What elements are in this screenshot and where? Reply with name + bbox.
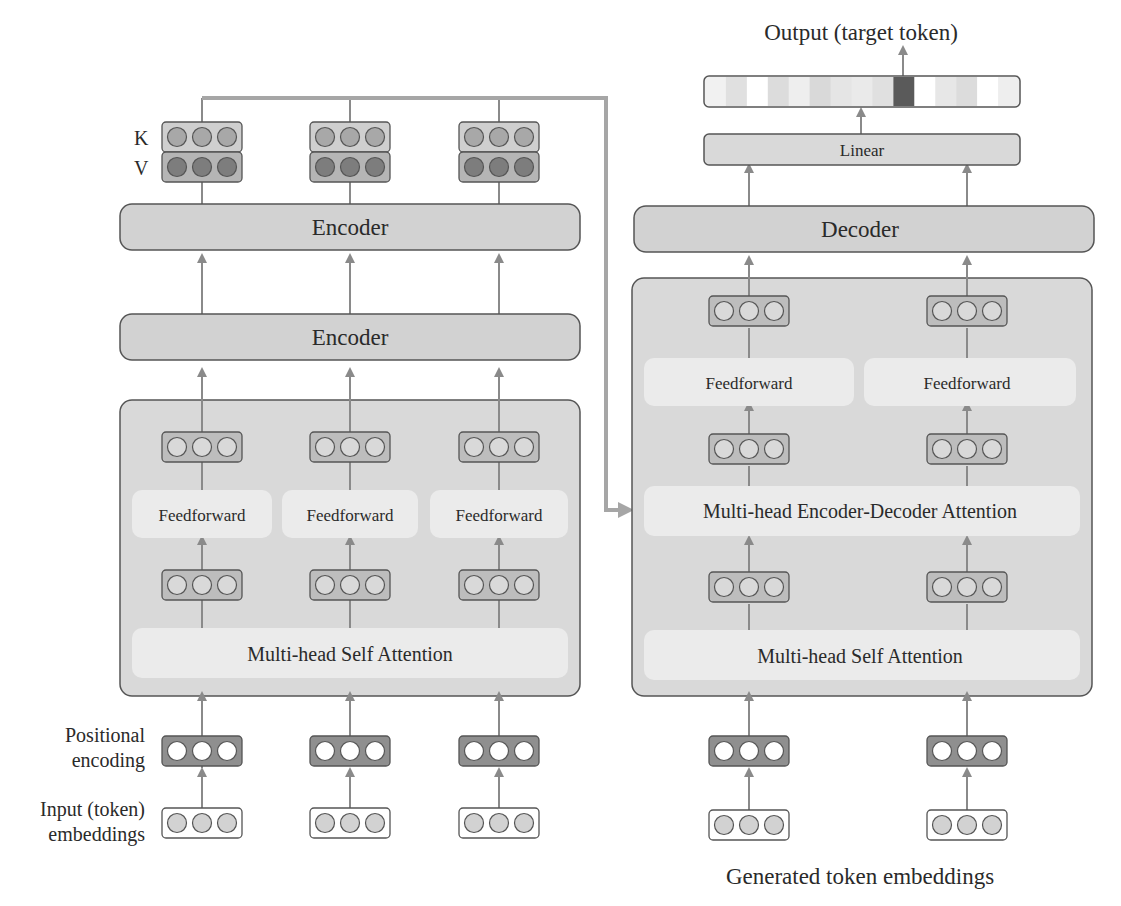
vector-unit-icon	[933, 578, 952, 597]
vector-unit-icon	[983, 816, 1002, 835]
token-probability-cell	[768, 77, 789, 106]
vector-unit-icon	[316, 438, 335, 457]
vector-unit-icon	[218, 128, 237, 147]
key-vector	[310, 122, 390, 152]
positional-encoding-vector	[310, 736, 390, 766]
token-probability-cell	[810, 77, 831, 106]
vector-unit-icon	[740, 816, 759, 835]
vector-unit-icon	[765, 742, 784, 761]
vector-unit-icon	[515, 158, 534, 177]
token-probability-cell	[705, 77, 726, 106]
vector-unit-icon	[958, 302, 977, 321]
encoder-block-1-label: Encoder	[312, 325, 389, 350]
encoder-feedforward-label: Feedforward	[159, 506, 246, 525]
vector-unit-icon	[316, 158, 335, 177]
output-label: Output (target token)	[764, 20, 958, 45]
vector-unit-icon	[316, 814, 335, 833]
vector-unit-icon	[193, 128, 212, 147]
value-vector	[162, 152, 242, 182]
vector-unit-icon	[515, 742, 534, 761]
vector-unit-icon	[715, 440, 734, 459]
key-vector	[459, 122, 539, 152]
vector-unit-icon	[983, 742, 1002, 761]
token-probability-cell	[831, 77, 852, 106]
encoder-attention-output-vector	[310, 570, 390, 600]
vector-unit-icon	[366, 128, 385, 147]
vector-unit-icon	[715, 742, 734, 761]
encoder-stack: Multi-head Self Attention Feedforward Fe…	[40, 98, 580, 846]
vector-unit-icon	[168, 438, 187, 457]
vector-unit-icon	[933, 816, 952, 835]
vector-unit-icon	[983, 440, 1002, 459]
token-probability-cell	[914, 77, 935, 106]
decoder-ffn-output-vector	[927, 296, 1007, 326]
positional-encoding-vector	[459, 736, 539, 766]
decoder-self-attention-label: Multi-head Self Attention	[757, 645, 963, 667]
vector-unit-icon	[465, 158, 484, 177]
vector-unit-icon	[490, 128, 509, 147]
transformer-diagram: Multi-head Self Attention Feedforward Fe…	[0, 0, 1121, 906]
vector-unit-icon	[341, 742, 360, 761]
vector-unit-icon	[341, 128, 360, 147]
input-embeddings-label: Input (token)	[40, 798, 145, 821]
vector-unit-icon	[515, 438, 534, 457]
input-embedding-vector	[459, 808, 539, 838]
positional-encoding-vector	[709, 736, 789, 766]
positional-encoding-label: encoding	[72, 749, 145, 772]
vector-unit-icon	[490, 576, 509, 595]
vector-unit-icon	[341, 438, 360, 457]
vector-unit-icon	[765, 440, 784, 459]
token-probability-cell	[935, 77, 956, 106]
vector-unit-icon	[740, 742, 759, 761]
token-probability-cell	[872, 77, 893, 106]
token-probability-cell	[747, 77, 768, 106]
vector-unit-icon	[740, 578, 759, 597]
vector-unit-icon	[366, 742, 385, 761]
vector-unit-icon	[715, 578, 734, 597]
output-distribution	[705, 77, 1020, 106]
encoder-attention-output-vector	[162, 570, 242, 600]
input-embeddings-label: embeddings	[48, 823, 145, 846]
vector-unit-icon	[983, 578, 1002, 597]
vector-unit-icon	[958, 578, 977, 597]
vector-unit-icon	[515, 128, 534, 147]
vector-unit-icon	[316, 576, 335, 595]
vector-unit-icon	[168, 158, 187, 177]
decoder-cross-attention-output-vector	[927, 434, 1007, 464]
vector-unit-icon	[341, 158, 360, 177]
vector-unit-icon	[983, 302, 1002, 321]
vector-unit-icon	[193, 438, 212, 457]
key-vector	[162, 122, 242, 152]
vector-unit-icon	[366, 814, 385, 833]
decoder-self-attention-output-vector	[927, 572, 1007, 602]
token-probability-cell	[726, 77, 747, 106]
vector-unit-icon	[765, 816, 784, 835]
vector-unit-icon	[218, 158, 237, 177]
vector-unit-icon	[193, 158, 212, 177]
encoder-ffn-output-vector	[162, 432, 242, 462]
decoder-feedforward-label: Feedforward	[924, 374, 1011, 393]
encoder-ffn-output-vector	[310, 432, 390, 462]
vector-unit-icon	[168, 576, 187, 595]
vector-unit-icon	[958, 440, 977, 459]
generated-embeddings-label: Generated token embeddings	[726, 864, 994, 889]
vector-unit-icon	[740, 302, 759, 321]
linear-layer-label: Linear	[840, 141, 885, 160]
positional-encoding-label: Positional	[65, 724, 145, 746]
vector-unit-icon	[715, 816, 734, 835]
encoder-feedforward-label: Feedforward	[456, 506, 543, 525]
vector-unit-icon	[218, 742, 237, 761]
vector-unit-icon	[193, 742, 212, 761]
encoder-self-attention-label: Multi-head Self Attention	[247, 643, 453, 665]
decoder-self-attention-output-vector	[709, 572, 789, 602]
vector-unit-icon	[218, 576, 237, 595]
decoder-block-label: Decoder	[821, 217, 899, 242]
input-embedding-vector	[162, 808, 242, 838]
vector-unit-icon	[933, 302, 952, 321]
vector-unit-icon	[465, 128, 484, 147]
vector-unit-icon	[316, 128, 335, 147]
vector-unit-icon	[366, 576, 385, 595]
encoder-ffn-output-vector	[459, 432, 539, 462]
vector-unit-icon	[933, 440, 952, 459]
vector-unit-icon	[218, 438, 237, 457]
